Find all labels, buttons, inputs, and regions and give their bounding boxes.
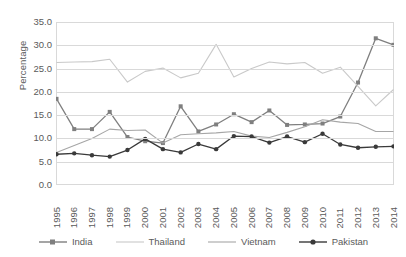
x-axis-tick: 2001 — [158, 207, 168, 228]
series-vietnam — [57, 120, 394, 153]
y-axis-tick: 25.0 — [12, 64, 52, 74]
data-point — [178, 150, 182, 154]
data-point — [267, 140, 271, 144]
y-axis-tick: 30.0 — [12, 40, 52, 50]
x-axis-tick-labels: 1995199619971998199920002001200220032004… — [56, 188, 394, 228]
x-axis-tick: 2007 — [264, 207, 274, 228]
data-point — [56, 152, 59, 156]
data-point — [72, 151, 76, 155]
legend-label: Thailand — [149, 237, 185, 247]
x-axis-tick: 2013 — [371, 207, 381, 228]
x-axis-tick: 2005 — [229, 207, 239, 228]
y-axis-tick: 5.0 — [12, 157, 52, 167]
y-axis-tick: 35.0 — [12, 17, 52, 27]
gridline — [56, 92, 394, 93]
x-axis-tick: 2000 — [140, 207, 150, 228]
legend-swatch-icon — [298, 237, 328, 247]
x-axis-tick: 1997 — [87, 207, 97, 228]
x-axis-tick: 1995 — [52, 207, 62, 228]
data-point — [214, 147, 218, 151]
data-point — [108, 154, 112, 158]
data-point — [391, 144, 394, 148]
series-line — [57, 120, 394, 153]
x-axis-tick: 1999 — [122, 207, 132, 228]
legend-item-india[interactable]: India — [38, 237, 93, 247]
data-point — [90, 127, 94, 131]
x-axis-tick: 1996 — [69, 207, 79, 228]
series-india — [56, 36, 394, 145]
series-pakistan — [56, 132, 394, 159]
data-point — [72, 127, 76, 131]
legend-item-thailand[interactable]: Thailand — [115, 237, 185, 247]
y-axis-tick: 15.0 — [12, 110, 52, 120]
x-axis-tick: 2014 — [389, 207, 399, 228]
x-axis-tick: 2010 — [318, 207, 328, 228]
data-point — [196, 142, 200, 146]
series-line — [57, 44, 394, 105]
data-point — [214, 122, 218, 126]
plot-area — [56, 22, 394, 185]
series-thailand — [57, 44, 394, 105]
line-chart: Percentage 0.05.010.015.020.025.030.035.… — [0, 0, 406, 257]
legend-label: India — [72, 237, 93, 247]
x-axis-tick: 2004 — [211, 207, 221, 228]
x-axis-tick: 2002 — [176, 207, 186, 228]
data-point — [90, 153, 94, 157]
x-axis-tick: 2008 — [282, 207, 292, 228]
data-point — [267, 108, 271, 112]
gridline — [56, 162, 394, 163]
data-point — [250, 120, 254, 124]
y-axis-tick: 20.0 — [12, 87, 52, 97]
x-axis-tick: 1998 — [105, 207, 115, 228]
y-axis-tick-labels: 0.05.010.015.020.025.030.035.0 — [8, 0, 52, 257]
legend-label: Pakistan — [332, 237, 368, 247]
data-point — [161, 147, 165, 151]
legend-item-vietnam[interactable]: Vietnam — [207, 237, 276, 247]
data-point — [374, 145, 378, 149]
legend-swatch-icon — [38, 237, 68, 247]
data-point — [285, 123, 289, 127]
data-point — [320, 132, 324, 136]
y-axis-tick: 0.0 — [12, 180, 52, 190]
data-point — [356, 81, 360, 85]
data-point — [56, 97, 59, 101]
data-point — [125, 148, 129, 152]
data-point — [338, 142, 342, 146]
data-point — [196, 129, 200, 133]
legend-swatch-icon — [115, 237, 145, 247]
data-point — [374, 36, 378, 40]
series-layer — [56, 22, 394, 185]
x-axis-tick: 2011 — [335, 208, 345, 228]
data-point — [303, 140, 307, 144]
series-line — [57, 38, 394, 143]
gridline — [56, 115, 394, 116]
gridline — [56, 138, 394, 139]
x-axis-tick: 2006 — [247, 207, 257, 228]
legend-item-pakistan[interactable]: Pakistan — [298, 237, 368, 247]
data-point — [321, 122, 325, 126]
gridline — [56, 45, 394, 46]
x-axis-tick: 2012 — [353, 207, 363, 228]
x-axis-tick: 2009 — [300, 207, 310, 228]
legend-label: Vietnam — [241, 237, 276, 247]
data-point — [356, 146, 360, 150]
legend-swatch-icon — [207, 237, 237, 247]
chart-legend: IndiaThailandVietnamPakistan — [0, 231, 406, 253]
data-point — [179, 104, 183, 108]
gridline — [56, 69, 394, 70]
y-axis-tick: 10.0 — [12, 133, 52, 143]
data-point — [108, 110, 112, 114]
series-line — [57, 134, 394, 157]
gridline — [56, 22, 394, 23]
x-axis-tick: 2003 — [193, 207, 203, 228]
